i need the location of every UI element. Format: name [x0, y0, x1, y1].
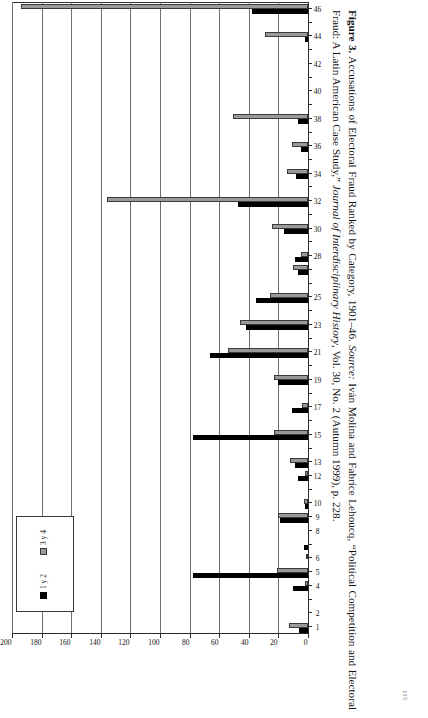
page-folio: 115: [401, 690, 409, 700]
bar-group: [12, 374, 308, 385]
bar-group: [12, 622, 308, 633]
caption-rotor: Figure 3. Accusations of Electoral Fraud…: [298, 0, 362, 718]
bar-group: [12, 347, 308, 358]
source-journal: Journal of Interdisciplinary History: [332, 185, 344, 345]
value-axis-tick: [12, 633, 13, 638]
bar-group: [12, 471, 308, 482]
bar-group: [12, 278, 308, 289]
bar: [193, 573, 308, 578]
value-axis-label: 140: [78, 638, 100, 647]
legend-entry: 1 y 2: [39, 574, 48, 599]
figure-caption: Figure 3. Accusations of Electoral Fraud…: [329, 10, 360, 710]
bar-group: [12, 333, 308, 344]
bar-group: [12, 3, 308, 14]
value-axis-tick: [71, 633, 72, 638]
value-axis-tick: [190, 633, 191, 638]
value-axis-tick: [42, 633, 43, 638]
value-axis-label: 100: [138, 638, 160, 647]
bar-group: [12, 168, 308, 179]
bar-group: [12, 484, 308, 495]
bar-group: [12, 223, 308, 234]
value-axis-label: 120: [108, 638, 130, 647]
bar: [21, 4, 308, 9]
bar-group: [12, 45, 308, 56]
source-authors: Iván Molina and Fabrice Lehoucq,: [347, 383, 359, 541]
bar-group: [12, 416, 308, 427]
bar-group: [12, 251, 308, 262]
bar-group: [12, 429, 308, 440]
bar-group: [12, 209, 308, 220]
bar-group: [12, 319, 308, 330]
bar-group: [12, 17, 308, 28]
bar-group: [12, 141, 308, 152]
value-axis-tick: [219, 633, 220, 638]
bar-group: [12, 264, 308, 275]
bar: [193, 435, 308, 440]
value-axis-tick: [160, 633, 161, 638]
square-swatch-gray: [40, 548, 47, 555]
square-swatch-black: [40, 592, 47, 599]
value-axis-label: 160: [49, 638, 71, 647]
bar-group: [12, 100, 308, 111]
value-axis-label: 60: [197, 638, 219, 647]
bar-group: [12, 182, 308, 193]
bar-group: [12, 306, 308, 317]
source-label: Source:: [347, 345, 359, 379]
legend-entry: 3 y 4: [39, 530, 48, 555]
bar-group: [12, 31, 308, 42]
figure-title: Accusations of Electoral Fraud Ranked by…: [347, 56, 359, 342]
bar-group: [12, 127, 308, 138]
figure-page: 020406080100120140160180200 124568910121…: [0, 0, 428, 718]
value-axis-tick: [278, 633, 279, 638]
value-axis-tick: [130, 633, 131, 638]
figure-label: Figure 3.: [347, 10, 359, 53]
bar-group: [12, 196, 308, 207]
bar: [228, 348, 308, 353]
source-volume: , Vol. 30, No. 2 (Autumn 1999), p. 228.: [332, 345, 344, 521]
bar-group: [12, 402, 308, 413]
bar-group: [12, 443, 308, 454]
bar-group: [12, 155, 308, 166]
legend-label: 1 y 2: [39, 574, 48, 589]
value-axis-label: 200: [0, 638, 12, 647]
legend-label: 3 y 4: [39, 530, 48, 545]
bar: [233, 114, 308, 119]
bar-chart: 020406080100120140160180200 124568910121…: [10, 2, 306, 640]
value-axis-tick: [101, 633, 102, 638]
value-axis-tick: [249, 633, 250, 638]
bar: [210, 353, 308, 358]
chart-legend: 1 y 23 y 4: [16, 516, 74, 612]
chart-rotor: 020406080100120140160180200 124568910121…: [0, 0, 306, 640]
value-axis-label: 20: [256, 638, 278, 647]
bar-group: [12, 388, 308, 399]
bar-group: [12, 86, 308, 97]
bar-group: [12, 58, 308, 69]
bar-group: [12, 113, 308, 124]
bar-group: [12, 292, 308, 303]
bar-group: [12, 72, 308, 83]
value-axis-label: 80: [167, 638, 189, 647]
bar: [107, 197, 308, 202]
bar-group: [12, 457, 308, 468]
bar-group: [12, 237, 308, 248]
bar-group: [12, 361, 308, 372]
value-axis-label: 40: [226, 638, 248, 647]
value-axis-label: 180: [19, 638, 41, 647]
bar-group: [12, 498, 308, 509]
